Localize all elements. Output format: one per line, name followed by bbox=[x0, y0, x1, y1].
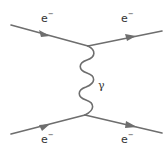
arrow-icon bbox=[125, 121, 137, 128]
incoming-top-electron-line bbox=[11, 25, 88, 46]
arrow-icon bbox=[39, 30, 50, 37]
label-photon: γ bbox=[98, 80, 105, 91]
label-base: e bbox=[41, 12, 48, 25]
label-charge: − bbox=[48, 131, 54, 139]
label-charge: − bbox=[128, 131, 134, 139]
outgoing-top-electron-line bbox=[88, 31, 162, 46]
arrow-icon bbox=[39, 124, 50, 131]
label-base: e bbox=[121, 133, 128, 146]
feynman-diagram bbox=[0, 0, 168, 151]
label-base: e bbox=[121, 12, 128, 25]
outgoing-bottom-electron-line bbox=[85, 115, 162, 133]
label-top-right-electron: e− bbox=[121, 13, 134, 24]
label-charge: − bbox=[48, 10, 54, 18]
label-top-left-electron: e− bbox=[41, 13, 54, 24]
label-bottom-left-electron: e− bbox=[41, 134, 54, 145]
photon-wavy-line bbox=[79, 46, 94, 115]
label-charge: − bbox=[128, 10, 134, 18]
arrow-icon bbox=[125, 34, 136, 41]
label-base: e bbox=[41, 133, 48, 146]
label-bottom-right-electron: e− bbox=[121, 134, 134, 145]
